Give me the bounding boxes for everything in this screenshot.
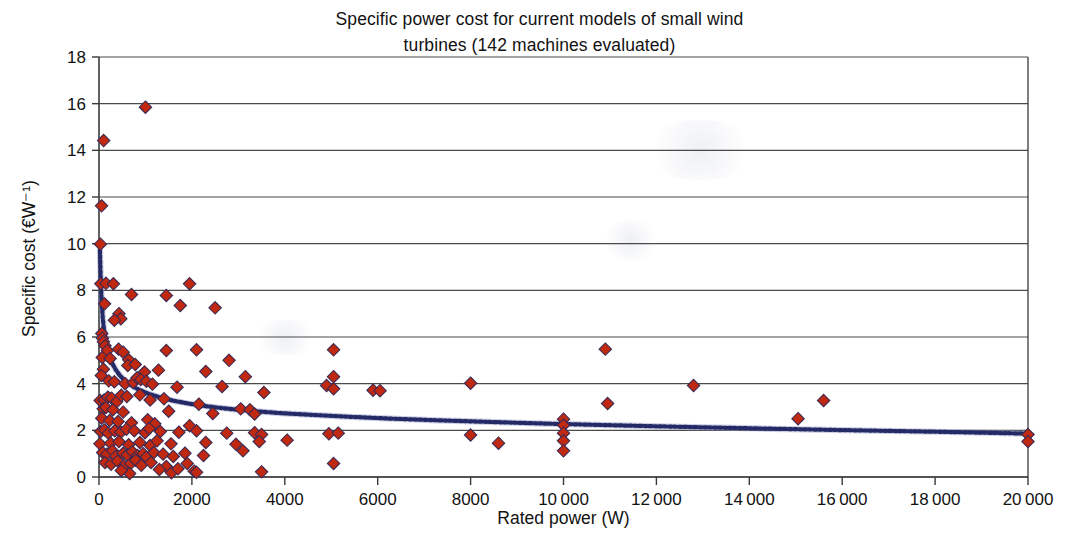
data-point-marker — [165, 438, 177, 450]
data-point-marker — [239, 370, 251, 382]
x-tick-label-16000: 16 000 — [817, 490, 868, 509]
data-point-marker — [179, 447, 191, 459]
x-tick-label-12000: 12 000 — [631, 490, 682, 509]
x-tick-label-18000: 18 000 — [910, 490, 961, 509]
data-point-marker — [190, 344, 202, 356]
y-tick-label-0: 0 — [77, 468, 86, 487]
data-point-marker — [687, 379, 699, 391]
x-tick-label-8000: 8000 — [452, 490, 490, 509]
data-point-marker — [216, 380, 228, 392]
y-tick-label-12: 12 — [67, 188, 86, 207]
data-point-marker — [557, 445, 569, 457]
data-point-marker — [173, 426, 185, 438]
y-tick-label-18: 18 — [67, 48, 86, 67]
x-tick-label-14000: 14 000 — [724, 490, 775, 509]
y-tick-label-14: 14 — [67, 141, 86, 160]
data-point-marker — [160, 344, 172, 356]
chart-figure: Specific power cost for current models o… — [0, 0, 1079, 554]
data-point-marker — [792, 412, 804, 424]
scatter-plot-canvas: 024681012141618 0200040006000800010 0001… — [0, 0, 1079, 554]
data-point-marker — [492, 437, 504, 449]
y-tick-label-4: 4 — [77, 375, 86, 394]
data-point-marker — [332, 427, 344, 439]
data-point-marker — [327, 370, 339, 382]
x-tick-label-20000: 20 000 — [1003, 490, 1054, 509]
data-point-marker — [258, 386, 270, 398]
data-point-marker — [174, 299, 186, 311]
y-tick-label-6: 6 — [77, 328, 86, 347]
data-point-marker — [601, 397, 613, 409]
data-point-marker — [327, 344, 339, 356]
data-point-marker — [200, 365, 212, 377]
data-point-marker — [162, 405, 174, 417]
x-tick-labels: 0200040006000800010 00012 00014 00016 00… — [94, 490, 1053, 509]
data-point-marker — [817, 394, 829, 406]
data-point-marker — [94, 238, 106, 250]
data-point-marker — [599, 343, 611, 355]
data-point-marker — [327, 457, 339, 469]
data-point-marker — [152, 364, 164, 376]
data-point-marker — [197, 449, 209, 461]
data-point-marker — [209, 302, 221, 314]
x-tick-label-2000: 2000 — [173, 490, 211, 509]
data-point-marker — [221, 427, 233, 439]
data-point-marker — [183, 278, 195, 290]
data-point-marker — [95, 200, 107, 212]
data-point-marker — [1022, 435, 1034, 447]
y-tick-label-10: 10 — [67, 235, 86, 254]
data-point-marker — [167, 450, 179, 462]
data-point-marker — [223, 354, 235, 366]
y-tick-label-8: 8 — [77, 281, 86, 300]
y-tick-label-2: 2 — [77, 421, 86, 440]
data-point-marker — [281, 434, 293, 446]
y-tick-label-16: 16 — [67, 95, 86, 114]
data-point-marker — [157, 448, 169, 460]
x-tick-label-10000: 10 000 — [538, 490, 589, 509]
x-tick-label-0: 0 — [94, 490, 103, 509]
y-tick-labels: 024681012141618 — [67, 48, 86, 487]
data-point-marker — [171, 381, 183, 393]
x-tick-label-6000: 6000 — [359, 490, 397, 509]
x-tick-label-4000: 4000 — [266, 490, 304, 509]
data-point-marker — [464, 377, 476, 389]
data-point-marker — [160, 289, 172, 301]
data-point-marker — [200, 436, 212, 448]
data-point-marker — [139, 101, 151, 113]
